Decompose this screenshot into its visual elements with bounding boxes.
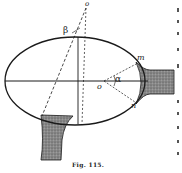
label-beta: β [63, 26, 68, 35]
label-o-top: o [85, 1, 89, 8]
dashed-o-n [104, 81, 135, 102]
dashed-line-short [82, 8, 86, 124]
label-o-center: o [97, 83, 102, 91]
label-alpha: α [115, 75, 121, 84]
figure-diagram [0, 0, 182, 173]
label-m: m [137, 54, 145, 62]
label-n: n [131, 102, 136, 110]
figure-caption: Fig. 115. [72, 161, 104, 168]
margin-text-fragments [177, 8, 179, 155]
